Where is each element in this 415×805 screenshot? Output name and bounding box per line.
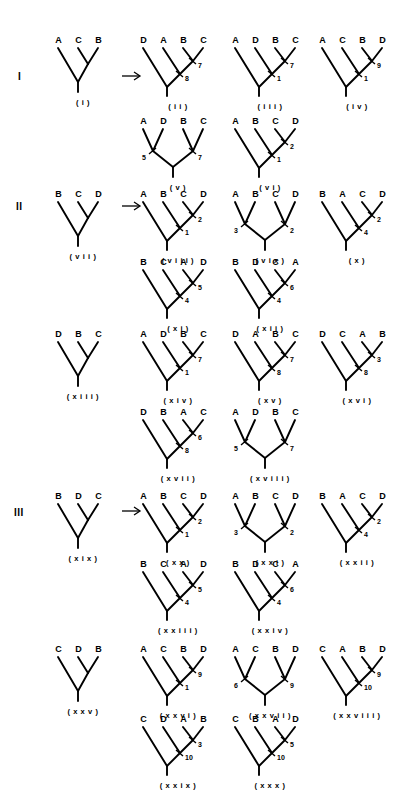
arrow-section-1	[122, 70, 142, 82]
tree-caption-iii: ( i i i )	[235, 103, 305, 111]
node-number: 7	[290, 356, 294, 363]
tree-caption-xvi: ( x v i )	[322, 397, 392, 405]
tree-branches-xxix	[143, 715, 213, 779]
tree-branches-xxvii	[235, 645, 305, 709]
node-number: 1	[185, 531, 189, 538]
node-number: 5	[142, 154, 146, 161]
section-label-ii: II	[16, 202, 23, 212]
node-number: 10	[364, 684, 372, 691]
tree-branches-xix	[58, 492, 108, 552]
tree-branches-xxvi	[143, 645, 213, 709]
tree-branches-vii	[58, 190, 108, 250]
node-number: 4	[185, 297, 189, 304]
node-number: 1	[185, 229, 189, 236]
node-number: 5	[234, 445, 238, 452]
tree-branches-x	[322, 190, 392, 254]
tree-caption-xxiii: ( x x i i i )	[143, 627, 213, 635]
node-number: 3	[234, 227, 238, 234]
tree-caption-vii: ( v i i )	[58, 253, 108, 261]
tree-branches-xx	[143, 492, 213, 556]
node-number: 9	[290, 682, 294, 689]
tree-branches-xi	[143, 258, 213, 322]
tree-branches-ii	[143, 36, 213, 100]
node-number: 4	[364, 229, 368, 236]
node-number: 2	[198, 216, 202, 223]
tree-caption-xxiv: ( x x i v )	[235, 627, 305, 635]
node-number: 7	[198, 62, 202, 69]
tree-branches-iv	[322, 36, 392, 100]
tree-branches-viii	[143, 190, 213, 254]
tree-caption-xv: ( x v )	[235, 397, 305, 405]
tree-caption-xiv: ( x i v )	[143, 397, 213, 405]
node-number: 2	[198, 518, 202, 525]
node-number: 7	[198, 356, 202, 363]
section-label-i: I	[18, 72, 21, 82]
node-number: 3	[377, 356, 381, 363]
tree-branches-xviii	[235, 408, 305, 472]
node-number: 3	[198, 741, 202, 748]
node-number: 2	[377, 518, 381, 525]
tree-branches-xii	[235, 258, 305, 322]
node-number: 4	[277, 599, 281, 606]
tree-caption-xxii: ( x x i i )	[322, 559, 392, 567]
node-number: 2	[290, 227, 294, 234]
node-number: 1	[277, 75, 281, 82]
tree-branches-xxi	[235, 492, 305, 556]
node-number: 4	[185, 599, 189, 606]
node-number: 1	[364, 75, 368, 82]
tree-branches-xxii	[322, 492, 392, 556]
tree-branches-xxiv	[235, 560, 305, 624]
tree-caption-xxviii: ( x x v i i i )	[322, 712, 392, 720]
section-label-iii: III	[14, 508, 24, 518]
node-number: 4	[277, 297, 281, 304]
node-number: 2	[290, 529, 294, 536]
node-number: 5	[198, 586, 202, 593]
tree-caption-xxv: ( x x v )	[58, 708, 108, 716]
node-number: 1	[185, 684, 189, 691]
node-number: 9	[198, 671, 202, 678]
tree-branches-xxiii	[143, 560, 213, 624]
node-number: 8	[185, 75, 189, 82]
node-number: 1	[277, 156, 281, 163]
node-number: 10	[185, 754, 193, 761]
tree-caption-i: ( i )	[58, 99, 108, 107]
node-number: 8	[185, 447, 189, 454]
arrow-section-3	[122, 505, 142, 517]
node-number: 6	[234, 682, 238, 689]
tree-branches-xiv	[143, 330, 213, 394]
tree-branches-xxviii	[322, 645, 392, 709]
node-number: 1	[185, 369, 189, 376]
tree-branches-xxv	[58, 645, 108, 705]
node-number: 7	[290, 445, 294, 452]
node-number: 10	[277, 754, 285, 761]
node-number: 6	[198, 434, 202, 441]
tree-branches-xiii	[58, 330, 108, 390]
node-number: 8	[364, 369, 368, 376]
tree-branches-iii	[235, 36, 305, 100]
tree-branches-xvii	[143, 408, 213, 472]
tree-caption-xvii: ( x v i i )	[143, 475, 213, 483]
node-number: 2	[377, 216, 381, 223]
node-number: 5	[198, 284, 202, 291]
tree-caption-iv: ( i v )	[322, 103, 392, 111]
arrow-section-2	[122, 200, 142, 212]
phylogenetic-tree-figure: ACB( i )DABC78( i i )ADBC71( i i i )ACBD…	[0, 0, 415, 805]
tree-branches-i	[58, 36, 108, 96]
tree-branches-xxx	[235, 715, 305, 779]
tree-branches-v	[143, 117, 213, 181]
node-number: 4	[364, 531, 368, 538]
node-number: 6	[290, 586, 294, 593]
tree-branches-xv	[235, 330, 305, 394]
tree-caption-xiii: ( x i i i )	[58, 393, 108, 401]
node-number: 2	[290, 143, 294, 150]
node-number: 9	[377, 671, 381, 678]
tree-branches-vix	[235, 190, 305, 254]
node-number: 3	[234, 529, 238, 536]
node-number: 6	[290, 284, 294, 291]
node-number: 7	[290, 62, 294, 69]
tree-caption-xix: ( x i x )	[58, 555, 108, 563]
tree-caption-x: ( x )	[322, 257, 392, 265]
tree-caption-ii: ( i i )	[143, 103, 213, 111]
tree-branches-vi	[235, 117, 305, 181]
tree-caption-xxix: ( x x i x )	[143, 782, 213, 790]
